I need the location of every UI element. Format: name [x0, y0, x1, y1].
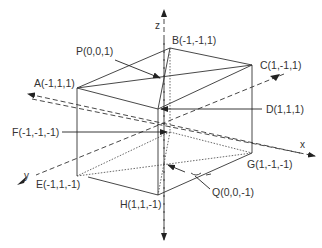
q-bracket [191, 173, 211, 175]
edge-F-E [77, 132, 170, 176]
vertex-label-D: D(1,1,1) [266, 103, 304, 115]
c-axis-arrow [270, 74, 280, 81]
cube-edges [77, 48, 252, 195]
cube-diagram: z x y B(-1,-1,1) P(0,0,1) C(1,-1,1) A(-1… [0, 0, 322, 248]
vertex-label-C: C(1,-1,1) [260, 59, 301, 71]
vertex-label-E: E(-1,1,-1) [36, 178, 80, 190]
point-label-Q: Q(0,0,-1) [212, 186, 254, 198]
leader-Q [195, 176, 210, 189]
y-axis-label: y [24, 170, 29, 181]
edge-F-G [170, 132, 252, 153]
vertex-label-H: H(1,1,-1) [120, 198, 161, 210]
hidden-edges [77, 48, 252, 195]
point-label-P: P(0,0,1) [76, 45, 113, 57]
vertex-label-A: A(-1,1,1) [34, 77, 75, 89]
leaders [62, 60, 262, 189]
top-face [77, 48, 252, 109]
vertex-label-F: F(-1,-1,-1) [12, 126, 59, 138]
x-axis-label: x [300, 139, 305, 150]
edge-E-H [88, 177, 158, 195]
vertex-label-B: B(-1,-1,1) [172, 34, 216, 46]
z-axis-label: z [155, 20, 160, 31]
vertex-label-G: G(1,-1,-1) [247, 158, 293, 170]
leader-Q2 [168, 165, 185, 172]
